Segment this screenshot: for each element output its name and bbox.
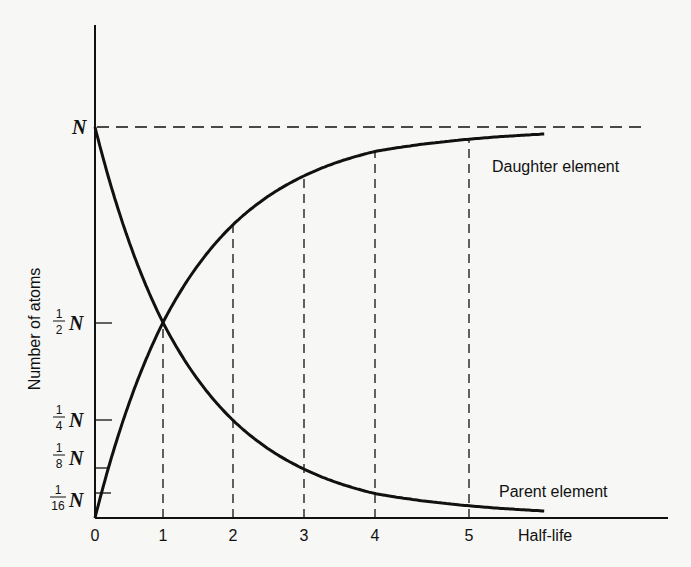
svg-text:1: 1 (56, 441, 63, 455)
half-life-guides (163, 139, 469, 518)
x-axis-title: Half-life (518, 527, 572, 544)
svg-text:5: 5 (465, 527, 474, 544)
svg-text:N: N (68, 409, 85, 431)
parent-element-label: Parent element (499, 483, 608, 500)
svg-text:N: N (68, 447, 85, 469)
daughter-element-curve (95, 134, 544, 518)
y-label-half: 1 2 N (53, 307, 85, 337)
svg-text:2: 2 (229, 527, 238, 544)
y-label-quarter: 1 4 N (53, 403, 85, 433)
svg-text:N: N (68, 312, 85, 334)
y-axis-title: Number of atoms (26, 268, 43, 391)
x-tick-labels: 0 1 2 3 4 5 (91, 527, 474, 544)
y-label-sixteenth: 1 16 N (50, 483, 85, 513)
y-label-n: N (71, 116, 88, 138)
svg-text:2: 2 (56, 323, 63, 337)
svg-text:1: 1 (159, 527, 168, 544)
svg-text:1: 1 (56, 403, 63, 417)
svg-text:4: 4 (371, 527, 380, 544)
svg-text:8: 8 (56, 457, 63, 471)
decay-chart: N 1 2 N 1 4 N 1 8 N 1 16 N Number of ato… (0, 0, 691, 567)
svg-text:4: 4 (56, 419, 63, 433)
svg-text:1: 1 (55, 483, 62, 497)
svg-text:1: 1 (56, 307, 63, 321)
svg-text:0: 0 (91, 527, 100, 544)
svg-text:3: 3 (300, 527, 309, 544)
svg-text:N: N (68, 489, 85, 511)
svg-text:16: 16 (51, 499, 65, 513)
daughter-element-label: Daughter element (492, 158, 620, 175)
y-label-eighth: 1 8 N (53, 441, 85, 471)
